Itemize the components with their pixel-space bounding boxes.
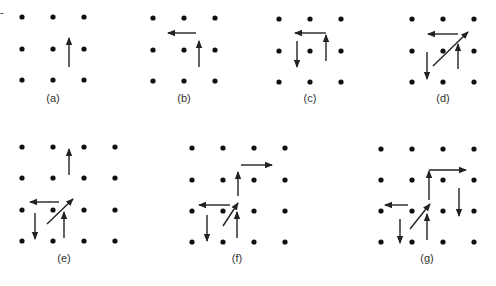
lattice-dot [19,207,24,212]
lattice-dot [409,79,414,84]
panel-label: (a) [46,92,59,104]
lattice-dot [212,15,217,20]
lattice-dot [19,144,24,149]
lattice-dot [251,177,256,182]
lattice-dot [220,239,225,244]
lattice-dot [338,16,343,21]
edge-mark: - [0,6,4,18]
lattice-dot [440,48,445,53]
lattice-dot [212,47,217,52]
lattice-dot [50,77,55,82]
lattice-dot [471,208,476,213]
lattice-dot [220,177,225,182]
lattice-dot [220,208,225,213]
panel-g: (g) [378,146,476,264]
lattice-dot [112,207,117,212]
lattice-dot [150,78,155,83]
lattice-dot [307,48,312,53]
lattice-dot [50,46,55,51]
lattice-dot [19,14,24,19]
lattice-dot [471,146,476,151]
lattice-dot [181,47,186,52]
lattice-dot [471,177,476,182]
lattice-dot [19,46,24,51]
lattice-dot [409,48,414,53]
lattice-dot [409,239,414,244]
lattice-dot [189,145,194,150]
lattice-dot [282,145,287,150]
lattice-dot [276,79,281,84]
lattice-dot [378,208,383,213]
panel-c: (c) [276,16,343,104]
lattice-dot [440,208,445,213]
lattice-dot [276,48,281,53]
lattice-dot [471,79,476,84]
lattice-grid [19,14,86,82]
arrow-up-right-icon [433,32,468,66]
lattice-dot [409,146,414,151]
lattice-dot [409,177,414,182]
lattice-dot [19,175,24,180]
lattice-dot [150,15,155,20]
lattice-dot [81,14,86,19]
lattice-dot [409,208,414,213]
lattice-dot [378,177,383,182]
panel-label: (d) [436,92,449,104]
lattice-dot [307,16,312,21]
lattice-dot [81,175,86,180]
panel-d: (d) [409,16,476,104]
panel-b: (b) [150,15,217,104]
lattice-dot [81,77,86,82]
lattice-dot [112,175,117,180]
lattice-dot [50,144,55,149]
lattice-dot [440,79,445,84]
lattice-dot [251,208,256,213]
panel-label: (c) [304,92,317,104]
lattice-dot [378,146,383,151]
lattice-grid [150,15,217,83]
lattice-dot [181,15,186,20]
lattice-dot [251,239,256,244]
lattice-dot [471,48,476,53]
lattice-dot [220,145,225,150]
lattice-dot [282,177,287,182]
lattice-dot [338,79,343,84]
panel-label: (f) [232,252,242,264]
lattice-dot [181,78,186,83]
panel-label: (e) [57,252,70,264]
lattice-dot [50,175,55,180]
lattice-dot [409,16,414,21]
lattice-dot [251,145,256,150]
lattice-dot [282,208,287,213]
panel-a: (a) [19,14,86,104]
lattice-dot [189,208,194,213]
lattice-dot [50,207,55,212]
lattice-dot [19,77,24,82]
arrow-up-right-icon [223,203,238,226]
lattice-dot [440,146,445,151]
lattice-dot [471,239,476,244]
panel-f: (f) [189,145,287,264]
lattice-dot [189,239,194,244]
lattice-dot [189,177,194,182]
lattice-grid [409,16,476,84]
lattice-dot [150,47,155,52]
lattice-grid [276,16,343,84]
lattice-dot [81,238,86,243]
lattice-dot [81,46,86,51]
lattice-walk-diagram: (a)(b)(c)(d)(e)(f)(g) - [0,0,496,286]
lattice-dot [276,16,281,21]
lattice-dot [307,79,312,84]
lattice-dot [440,177,445,182]
panel-e: (e) [19,144,117,264]
lattice-dot [378,239,383,244]
lattice-dot [81,144,86,149]
lattice-dot [19,238,24,243]
lattice-dot [282,239,287,244]
lattice-dot [338,48,343,53]
lattice-dot [81,207,86,212]
lattice-dot [471,16,476,21]
lattice-dot [112,144,117,149]
lattice-dot [50,238,55,243]
lattice-dot [212,78,217,83]
